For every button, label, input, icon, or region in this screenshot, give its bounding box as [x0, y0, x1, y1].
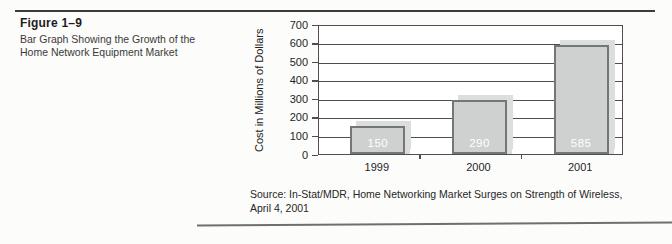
y-tick-label: 0	[272, 149, 308, 162]
source-note: Source: In-Stat/MDR, Home Networking Mar…	[250, 187, 650, 215]
y-tick-mark	[312, 80, 318, 82]
bar-1999: 150	[350, 126, 405, 154]
y-tick-mark	[312, 62, 318, 64]
figure-label: Figure 1–9	[20, 16, 220, 30]
x-tick-mark	[419, 155, 421, 159]
y-tick-label: 100	[272, 130, 308, 143]
y-tick-label: 400	[272, 74, 308, 87]
bottom-rule	[197, 222, 672, 227]
x-tick-label: 1999	[347, 161, 407, 173]
source-line-1: Source: In-Stat/MDR, Home Networking Mar…	[250, 187, 650, 201]
bar-value-label: 585	[556, 137, 607, 149]
bar-value-label: 150	[352, 137, 403, 149]
y-tick-label: 300	[272, 93, 308, 106]
bar-2001: 585	[554, 45, 609, 154]
y-tick-mark	[312, 117, 318, 119]
y-tick-mark	[312, 136, 318, 138]
y-tick-label: 200	[272, 111, 308, 124]
x-tick-label: 2001	[550, 161, 610, 173]
plot-area: 150290585	[318, 25, 623, 155]
y-tick-label: 500	[272, 56, 308, 69]
top-rule	[15, 10, 655, 12]
y-tick-mark	[312, 43, 318, 45]
y-tick-mark	[312, 155, 318, 157]
bar-value-label: 290	[454, 137, 505, 149]
y-tick-label: 600	[272, 37, 308, 50]
x-tick-mark	[521, 155, 523, 159]
bar-2000: 290	[452, 100, 507, 154]
y-tick-label: 700	[272, 19, 308, 32]
scanned-textbook-figure: Figure 1–9 Bar Graph Showing the Growth …	[0, 0, 672, 244]
y-tick-mark	[312, 25, 318, 27]
y-tick-mark	[312, 99, 318, 101]
figure-caption-line-2: Home Network Equipment Market	[20, 46, 220, 59]
figure-caption: Figure 1–9 Bar Graph Showing the Growth …	[20, 16, 220, 59]
figure-caption-line-1: Bar Graph Showing the Growth of the	[20, 33, 220, 46]
y-axis-title: Cost in Millions of Dollars	[252, 25, 266, 155]
source-line-2: April 4, 2001	[250, 201, 650, 215]
x-tick-label: 2000	[449, 161, 509, 173]
